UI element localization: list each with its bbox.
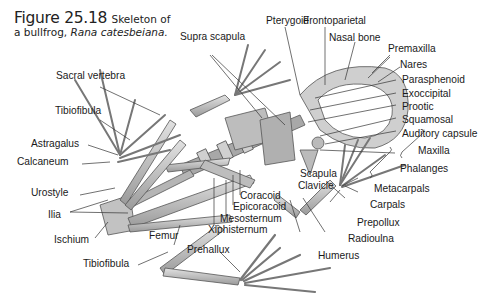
label-clavicle: Clavicle	[298, 181, 334, 191]
label-squamosal: Squamosal	[402, 115, 453, 125]
label-frontoparietal: Frontoparietal	[303, 16, 366, 26]
label-maxilla: Maxilla	[418, 146, 450, 156]
label-femur: Femur	[149, 231, 178, 241]
label-carpals: Carpals	[370, 200, 405, 210]
label-prehallux: Prehallux	[187, 245, 229, 255]
label-sacral-vertebra: Sacral vertebra	[56, 71, 125, 81]
label-urostyle: Urostyle	[31, 188, 68, 198]
label-auditory-capsule: Auditory capsule	[402, 129, 477, 139]
label-prepollux: Prepollux	[357, 218, 399, 228]
label-tibiofibula-upper: Tibiofibula	[55, 106, 101, 116]
label-premaxilla: Premaxilla	[388, 44, 436, 54]
label-astragalus: Astragalus	[31, 139, 79, 149]
label-tibiofibula-lower: Tibiofibula	[83, 259, 129, 269]
label-epicoracoid: Epicoracoid	[233, 202, 286, 212]
label-xiphisternum: Xiphisternum	[208, 225, 267, 235]
label-supra-scapula: Supra scapula	[180, 32, 245, 42]
label-prootic: Prootic	[402, 102, 434, 112]
label-ilia: Ilia	[48, 210, 61, 220]
label-mesosternum: Mesosternum	[220, 214, 282, 224]
label-nasal-bone: Nasal bone	[329, 33, 381, 43]
label-parasphenoid: Parasphenoid	[402, 75, 465, 85]
label-exoccipital: Exoccipital	[402, 89, 451, 99]
label-calcaneum: Calcaneum	[17, 157, 69, 167]
label-phalanges: Phalanges	[400, 164, 448, 174]
label-nares: Nares	[400, 60, 427, 70]
label-coracoid: Coracoid	[240, 191, 281, 201]
label-radioulna: Radioulna	[348, 234, 394, 244]
label-scapula: Scapula	[300, 169, 337, 179]
label-ischium: Ischium	[54, 235, 89, 245]
label-metacarpals: Metacarpals	[374, 184, 430, 194]
label-humerus: Humerus	[318, 251, 359, 261]
